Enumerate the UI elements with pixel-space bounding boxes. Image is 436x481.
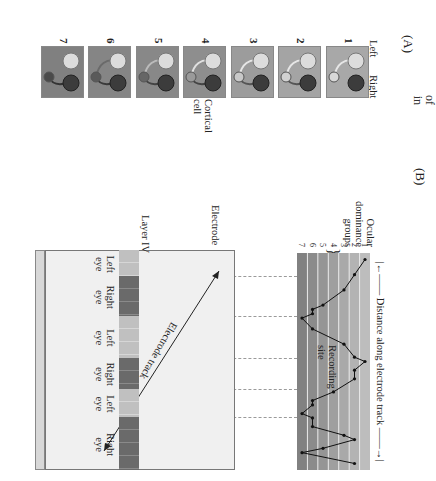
frame-number: 4 bbox=[201, 38, 213, 44]
frame-7 bbox=[41, 46, 84, 98]
ocular-dominance-label: Ocular dominance groups bbox=[343, 185, 376, 247]
electrode-track-arrow-icon bbox=[44, 251, 234, 471]
frame-number: 3 bbox=[248, 38, 260, 44]
layer-column-right bbox=[119, 417, 139, 470]
layer-column-left bbox=[119, 389, 139, 418]
cortex-block-side bbox=[35, 250, 45, 470]
left-eye-label: Left bbox=[368, 40, 379, 58]
eye-label: Left bbox=[105, 255, 116, 273]
group-tick: 1 bbox=[360, 243, 369, 247]
frame-1 bbox=[326, 46, 369, 98]
figure-ocular-dominance: of in (A) Left Right 1234567 Cortical ce… bbox=[0, 0, 436, 481]
eye-sub-label: eye bbox=[94, 367, 105, 382]
eye-sub-label: eye bbox=[94, 437, 105, 452]
frame-number: 6 bbox=[106, 38, 118, 44]
eye-label: Right bbox=[105, 363, 116, 386]
eye-sub-label: eye bbox=[94, 257, 105, 272]
cortical-cell-label: Cortical cell bbox=[192, 99, 214, 147]
frame-6 bbox=[89, 46, 132, 98]
group-tick: 3 bbox=[339, 243, 348, 247]
layer-column-right bbox=[119, 276, 139, 316]
layer-column-label: Righteye bbox=[94, 430, 116, 460]
frame-number: 1 bbox=[343, 38, 355, 44]
panel-a-label: (A) bbox=[400, 35, 416, 53]
right-eye-label: Right bbox=[368, 75, 379, 98]
caption-word: in bbox=[411, 96, 425, 105]
frame-5 bbox=[136, 46, 179, 98]
arrow-right-icon: ——→| bbox=[375, 428, 386, 462]
group-tick: 5 bbox=[318, 243, 327, 247]
eye-label: Left bbox=[105, 329, 116, 347]
frame-number: 2 bbox=[296, 38, 308, 44]
frame-4 bbox=[184, 46, 227, 98]
frame-number: 5 bbox=[153, 38, 165, 44]
eye-label: Left bbox=[105, 395, 116, 413]
cortex-block: Electrode track bbox=[45, 250, 235, 470]
arrow-left-icon: |←—— bbox=[375, 262, 386, 296]
eye-label: Right bbox=[105, 433, 116, 456]
eye-label: Right bbox=[105, 286, 116, 309]
layer-iv-strip bbox=[119, 250, 139, 470]
eye-sub-label: eye bbox=[94, 397, 105, 412]
recording-site-label: Recording site bbox=[316, 345, 338, 395]
layer-column-label: Lefteye bbox=[94, 389, 116, 419]
group-tick: 2 bbox=[350, 243, 359, 247]
group-tick: 4 bbox=[329, 243, 338, 247]
frame-3 bbox=[231, 46, 274, 98]
eye-sub-label: eye bbox=[94, 290, 105, 305]
electrode-label: Electrode bbox=[210, 205, 221, 245]
eye-sub-label: eye bbox=[94, 331, 105, 346]
group-tick: 6 bbox=[308, 243, 317, 247]
layer-column-label: Lefteye bbox=[94, 249, 116, 279]
layer-column-right bbox=[119, 358, 139, 389]
layer-column-left bbox=[119, 316, 139, 358]
layer-column-left bbox=[119, 250, 139, 276]
panel-b-label: (B) bbox=[412, 168, 428, 185]
layer-column-label: Righteye bbox=[94, 282, 116, 312]
frame-2 bbox=[279, 46, 322, 98]
layer-column-label: Righteye bbox=[94, 359, 116, 389]
layer-iv-label: Layer IV bbox=[140, 215, 151, 253]
frame-number: 7 bbox=[58, 38, 70, 44]
layer-column-label: Lefteye bbox=[94, 323, 116, 353]
distance-axis-label: |←—— Distance along electrode track ——→| bbox=[375, 253, 386, 470]
group-tick: 7 bbox=[297, 243, 306, 247]
